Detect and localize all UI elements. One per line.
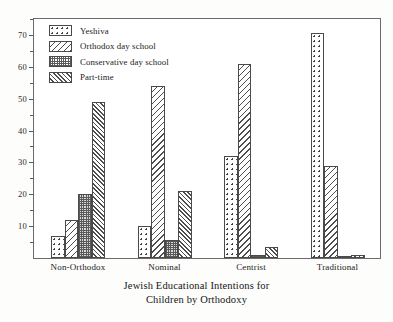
y-axis-tick-minor [30, 146, 33, 147]
x-axis-labels: Non-OrthodoxNominalCentristTraditional [34, 262, 380, 276]
bar [224, 156, 238, 258]
legend-item-label: Yeshiva [80, 26, 109, 36]
bar [51, 236, 65, 258]
legend-swatch-icon [49, 25, 72, 36]
legend-item-label: Orthodox day school [80, 41, 156, 51]
legend-swatch-icon [49, 56, 72, 67]
y-axis-tick-minor [30, 19, 33, 20]
y-axis-tick-major [29, 226, 33, 227]
x-axis-tick-label: Centrist [236, 262, 266, 272]
x-axis-tick-label: Traditional [317, 262, 358, 272]
bar [151, 86, 165, 258]
y-axis-tick-label: 40 [18, 126, 27, 136]
bar [165, 240, 179, 258]
y-axis-tick-minor [30, 83, 33, 84]
x-axis-tick-label: Non-Orthodox [51, 262, 106, 272]
chart-title: Jewish Educational Intentions for Childr… [0, 279, 393, 306]
legend-item: Part-time [49, 70, 199, 86]
y-axis-tick-major [29, 131, 33, 132]
y-axis-tick-minor [30, 178, 33, 179]
y-axis-tick-label: 70 [18, 30, 27, 40]
y-axis-tick-label: 10 [18, 221, 27, 231]
legend-item: Orthodox day school [49, 39, 199, 55]
bar [251, 255, 265, 258]
legend-swatch-icon [49, 41, 72, 52]
y-axis-tick-major [29, 35, 33, 36]
y-axis-tick-label: 20 [18, 189, 27, 199]
bar [338, 256, 352, 259]
y-axis-tick-minor [30, 210, 33, 211]
y-axis-labels: 10203040506070 [0, 18, 33, 259]
bar [324, 166, 338, 258]
bar [238, 64, 252, 258]
y-axis-tick-major [29, 67, 33, 68]
bar [265, 247, 279, 258]
chart-legend: YeshivaOrthodox day schoolConservative d… [49, 23, 199, 85]
bar [178, 191, 192, 258]
legend-item-label: Part-time [80, 72, 114, 82]
chart-title-line-2: Children by Orthodoxy [0, 293, 393, 307]
y-axis-tick-major [29, 194, 33, 195]
bar [311, 33, 325, 258]
y-axis-tick-label: 50 [18, 94, 27, 104]
chart-title-line-1: Jewish Educational Intentions for [0, 279, 393, 293]
bar-group [294, 19, 381, 258]
chart-figure: 10203040506070 YeshivaOrthodox day schoo… [0, 0, 393, 322]
y-axis-tick-minor [30, 51, 33, 52]
y-axis-tick-major [29, 162, 33, 163]
bar [92, 102, 106, 258]
bar-group [207, 19, 294, 258]
y-axis-tick-major [29, 99, 33, 100]
bar [351, 255, 365, 258]
bar [138, 226, 152, 258]
y-axis-tick-minor [30, 242, 33, 243]
bar [78, 194, 92, 258]
legend-item: Conservative day school [49, 54, 199, 70]
y-axis-tick-minor [30, 115, 33, 116]
legend-item-label: Conservative day school [80, 57, 169, 67]
bar [65, 220, 79, 258]
legend-item: Yeshiva [49, 23, 199, 39]
x-axis-tick-label: Nominal [148, 262, 181, 272]
legend-swatch-icon [49, 72, 72, 83]
y-axis-tick-label: 60 [18, 62, 27, 72]
y-axis-tick-label: 30 [18, 157, 27, 167]
